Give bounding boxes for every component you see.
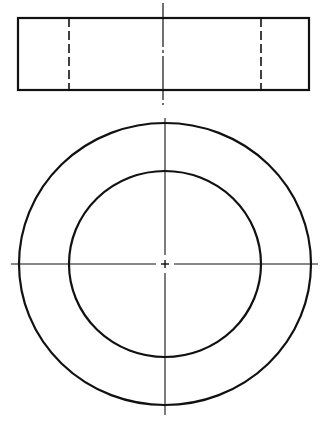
front-view [18, 3, 309, 105]
technical-drawing [0, 0, 325, 438]
top-view [11, 118, 318, 415]
